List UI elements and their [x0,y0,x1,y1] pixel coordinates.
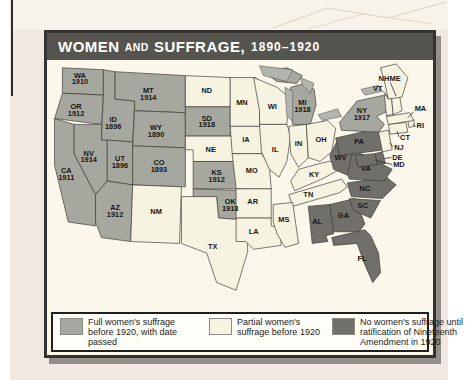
state-label-al: AL [312,217,322,226]
map-area: WA1910OR1912CA1911ID1896NV1914MT1914WY18… [47,60,433,312]
state-label-wi: WI [268,102,277,111]
state-label-ar: AR [247,197,258,206]
legend-label-full-suffrage: Full women's suffrage before 1920, with … [88,317,200,347]
state-label-in: IN [295,139,302,148]
state-label-il: IL [272,145,279,154]
legend-item-partial-suffrage: Partial women's suffrage before 1920 [209,317,323,337]
state-label-pa: PA [354,137,364,146]
map-title-women: WOMEN [58,38,120,55]
state-label-ky: KY [309,170,319,179]
state-label-me: ME [390,74,401,83]
state-label-wy: WY1890 [148,123,164,139]
state-label-nj: NJ [394,143,403,152]
state-label-ms: MS [278,215,289,224]
legend-label-no-suffrage: No women's suffrage until ratification o… [360,317,468,347]
state-label-ia: IA [242,135,250,144]
page-edge [0,0,10,380]
leader-line-de [383,158,391,159]
map-title-and: AND [125,41,149,53]
map-legend: Full women's suffrage before 1920, with … [51,312,429,352]
state-label-nd: ND [201,86,212,95]
legend-swatch-partial-suffrage [209,318,232,335]
map-title-suffrage: SUFFRAGE, [154,38,245,55]
state-label-ga: GA [338,211,350,220]
state-label-nc: NC [360,184,371,193]
page-binding-line [11,0,13,96]
state-label-sc: SC [358,201,369,210]
background-sketch-lines [268,0,448,30]
map-title-years: 1890–1920 [251,40,320,54]
legend-item-full-suffrage: Full women's suffrage before 1920, with … [60,317,200,347]
map-title-bar: WOMEN AND SUFFRAGE, 1890–1920 [47,33,433,60]
state-label-wv: WV [335,153,347,162]
state-label-nm: NM [150,207,162,216]
state-label-va: VA [361,164,371,173]
state-label-md: MD [393,160,405,169]
state-fl [332,230,381,283]
state-label-ri: RI [417,121,424,130]
state-label-la: LA [249,227,260,236]
state-label-nh: NH [379,74,390,83]
state-label-mo: MO [246,166,258,175]
legend-item-no-suffrage: No women's suffrage until ratification o… [332,317,468,347]
state-label-ct: CT [400,133,410,142]
state-label-vt: VT [373,84,383,93]
state-label-tx: TX [208,242,218,251]
great-lake-shape-4 [318,109,341,121]
legend-swatch-no-suffrage [332,318,355,335]
state-label-fl: FL [357,254,367,263]
state-label-ne: NE [206,145,216,154]
map-figure: WOMEN AND SUFFRAGE, 1890–1920 WA1910OR19… [44,30,436,358]
state-label-mn: MN [236,98,248,107]
state-label-oh: OH [315,135,326,144]
state-label-ma: MA [415,104,427,113]
us-states-map: WA1910OR1912CA1911ID1896NV1914MT1914WY18… [47,60,433,312]
legend-label-partial-suffrage: Partial women's suffrage before 1920 [237,317,323,337]
state-label-tn: TN [303,190,313,199]
legend-swatch-full-suffrage [60,318,83,335]
state-label-wa: WA1910 [72,71,88,87]
